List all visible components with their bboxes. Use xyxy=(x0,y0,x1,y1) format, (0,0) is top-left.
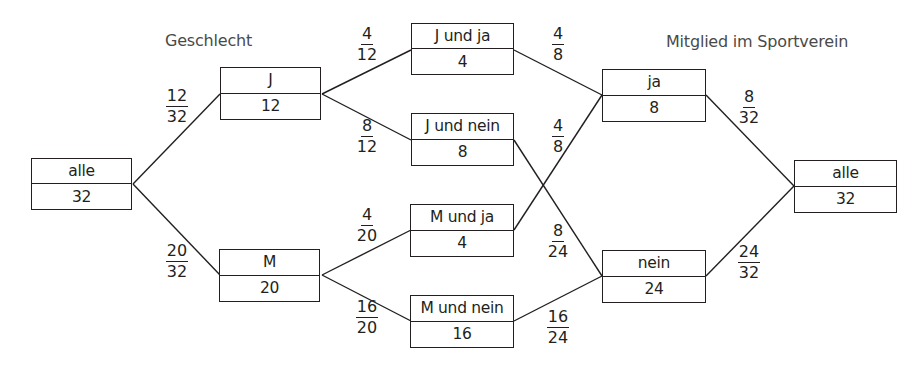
heading-geschlecht: Geschlecht xyxy=(165,31,252,50)
denominator: 32 xyxy=(161,107,193,126)
node-label: J und ja xyxy=(412,24,513,49)
fraction-m-mja: 4 20 xyxy=(351,206,383,245)
fraction-ja-alle: 8 32 xyxy=(733,88,765,127)
fraction-alle-j: 12 32 xyxy=(161,87,193,126)
node-m: M 20 xyxy=(219,249,320,302)
numerator: 4 xyxy=(552,25,564,45)
denominator: 12 xyxy=(351,45,383,64)
fraction-jja-ja: 4 8 xyxy=(542,25,574,64)
denominator: 20 xyxy=(351,226,383,245)
node-count: 32 xyxy=(32,184,131,209)
node-count: 4 xyxy=(411,231,513,257)
node-label: J xyxy=(221,68,320,94)
denominator: 12 xyxy=(351,137,383,156)
fraction-j-jja: 4 12 xyxy=(351,25,383,64)
node-count: 20 xyxy=(220,276,319,302)
node-count: 8 xyxy=(412,140,513,166)
numerator: 24 xyxy=(738,243,760,263)
node-label: alle xyxy=(795,161,896,187)
denominator: 20 xyxy=(351,318,383,337)
node-label: nein xyxy=(603,251,705,277)
numerator: 12 xyxy=(166,87,188,107)
node-m-und-nein: M und nein 16 xyxy=(410,295,514,348)
numerator: 20 xyxy=(166,242,188,262)
heading-sportverein: Mitglied im Sportverein xyxy=(666,32,848,51)
denominator: 32 xyxy=(733,263,765,282)
numerator: 4 xyxy=(552,117,564,137)
numerator: 16 xyxy=(547,308,569,328)
node-label: M und nein xyxy=(411,296,513,322)
numerator: 4 xyxy=(361,25,373,45)
node-count: 4 xyxy=(412,49,513,74)
node-label: alle xyxy=(32,159,131,184)
node-count: 16 xyxy=(411,322,513,348)
node-m-und-ja: M und ja 4 xyxy=(410,204,514,257)
node-j-und-nein: J und nein 8 xyxy=(411,113,514,166)
fraction-mnein-nein: 16 24 xyxy=(542,308,574,347)
node-count: 8 xyxy=(603,96,705,122)
numerator: 16 xyxy=(356,298,378,318)
node-count: 32 xyxy=(795,187,896,213)
denominator: 8 xyxy=(542,45,574,64)
node-alle-right: alle 32 xyxy=(794,160,897,213)
fraction-nein-alle: 24 32 xyxy=(733,243,765,282)
node-ja: ja 8 xyxy=(602,69,706,122)
numerator: 8 xyxy=(552,222,564,242)
denominator: 24 xyxy=(542,328,574,347)
node-nein: nein 24 xyxy=(602,250,706,303)
node-j: J 12 xyxy=(220,67,321,120)
numerator: 4 xyxy=(361,206,373,226)
numerator: 8 xyxy=(743,88,755,108)
node-label: M und ja xyxy=(411,205,513,231)
fraction-jnein-nein: 8 24 xyxy=(542,222,574,261)
denominator: 32 xyxy=(733,108,765,127)
node-label: J und nein xyxy=(412,114,513,140)
denominator: 8 xyxy=(542,137,574,156)
fraction-m-mnein: 16 20 xyxy=(351,298,383,337)
node-j-und-ja: J und ja 4 xyxy=(411,23,514,75)
fraction-j-jnein: 8 12 xyxy=(351,117,383,156)
node-label: ja xyxy=(603,70,705,96)
denominator: 32 xyxy=(161,262,193,281)
node-alle-left: alle 32 xyxy=(31,158,132,210)
numerator: 8 xyxy=(361,117,373,137)
fraction-alle-m: 20 32 xyxy=(161,242,193,281)
node-label: M xyxy=(220,250,319,276)
node-count: 24 xyxy=(603,277,705,303)
node-count: 12 xyxy=(221,94,320,120)
denominator: 24 xyxy=(542,242,574,261)
fraction-mja-ja: 4 8 xyxy=(542,117,574,156)
